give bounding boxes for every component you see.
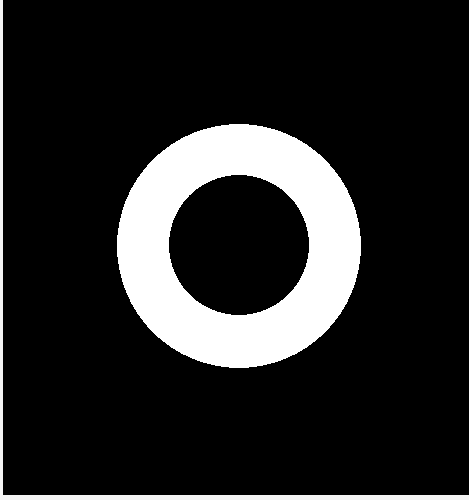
ring-shape [0,0,469,500]
ring-inner-hole [169,175,309,315]
